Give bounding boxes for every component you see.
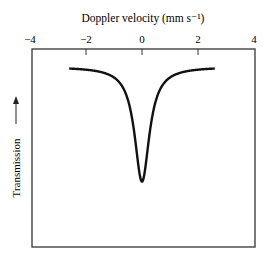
x-tick-label: −4: [24, 33, 36, 45]
x-tick-label: 0: [139, 33, 145, 45]
x-tick-labels: −4−2024: [24, 33, 257, 45]
x-tick-label: 4: [251, 33, 257, 45]
up-arrow-icon: [13, 96, 19, 124]
x-tick-label: −2: [80, 33, 92, 45]
plot-frame: [32, 49, 255, 247]
absorption-curve: [69, 69, 215, 182]
mossbauer-chart: Doppler velocity (mm s⁻¹) −4−2024 Transm…: [0, 0, 270, 260]
x-tick-marks: [86, 49, 198, 55]
y-axis-label: Transmission: [10, 138, 22, 197]
x-tick-label: 2: [195, 33, 201, 45]
y-axis-label-group: Transmission: [10, 96, 22, 197]
x-axis-label: Doppler velocity (mm s⁻¹): [82, 12, 205, 25]
